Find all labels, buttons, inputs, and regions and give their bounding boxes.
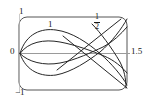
plot-figure: 1 −1 0 1.5 1 1 2 bbox=[0, 0, 157, 105]
axis-label-origin: 0 bbox=[10, 47, 15, 56]
fraction-numerator: 1 bbox=[94, 13, 100, 21]
axis-label-x-max: 1.5 bbox=[131, 47, 142, 56]
axis-label-y-min: −1 bbox=[15, 88, 25, 97]
curve-annotation-one: 1 bbox=[48, 20, 53, 29]
fraction-denominator: 2 bbox=[94, 23, 100, 31]
curve-annotation-half: 1 2 bbox=[94, 13, 100, 32]
fraction-one-half: 1 2 bbox=[94, 13, 100, 32]
axis-label-y-max: 1 bbox=[19, 7, 24, 16]
